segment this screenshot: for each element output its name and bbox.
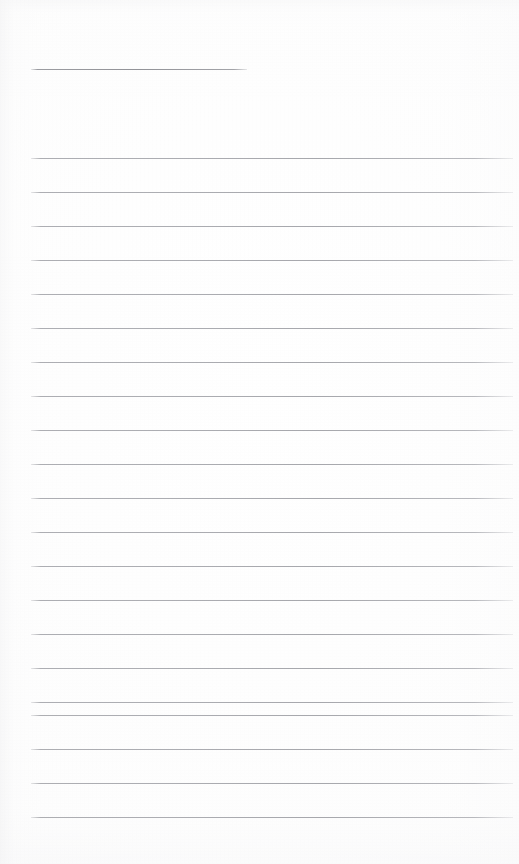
writing-line-area [31, 717, 513, 749]
ruled-line [31, 600, 513, 601]
writing-line-area [31, 466, 513, 498]
writing-line-area [31, 534, 513, 566]
writing-line-area [31, 194, 513, 226]
writing-line-area [31, 636, 513, 668]
ruled-line [31, 362, 513, 363]
ruled-line [31, 532, 513, 533]
document-page [0, 0, 519, 864]
ruled-line [31, 749, 513, 750]
ruled-line [31, 430, 513, 431]
writing-line-area [31, 262, 513, 294]
ruled-line [31, 715, 513, 716]
ruled-line [31, 260, 513, 261]
title-underline-rule [31, 69, 247, 70]
ruled-line [31, 634, 513, 635]
ruled-line [31, 817, 513, 818]
ruled-line [31, 783, 513, 784]
ruled-line [31, 396, 513, 397]
ruled-line [31, 294, 513, 295]
ruled-line [31, 158, 513, 159]
writing-line-area [31, 160, 513, 192]
writing-line-area [31, 683, 513, 715]
writing-line-area [31, 296, 513, 328]
writing-line-area [31, 126, 513, 158]
writing-line-area [31, 751, 513, 783]
ruled-line [31, 702, 513, 703]
writing-line-area [31, 398, 513, 430]
paper-texture-overlay [0, 0, 519, 864]
writing-line-area [31, 364, 513, 396]
writing-line-area [31, 330, 513, 362]
writing-line-area [31, 228, 513, 260]
ruled-line [31, 328, 513, 329]
ruled-line [31, 192, 513, 193]
writing-line-area [31, 602, 513, 634]
writing-line-area [31, 568, 513, 600]
writing-line-area [31, 432, 513, 464]
writing-line-area [31, 785, 513, 817]
ruled-line [31, 566, 513, 567]
ruled-line [31, 464, 513, 465]
writing-line-area [31, 670, 513, 702]
ruled-line [31, 668, 513, 669]
writing-line-area [31, 500, 513, 532]
ruled-line [31, 498, 513, 499]
ruled-line [31, 226, 513, 227]
